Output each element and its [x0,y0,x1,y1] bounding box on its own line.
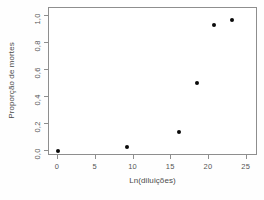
x-tick-label: 5 [93,162,97,171]
y-tick-label-text: 0,0 [34,148,42,159]
y-tick-label-text: 0,8 [34,40,42,51]
data-points-layer [49,8,256,154]
y-axis-title-label: Proporção de mortes [7,42,16,119]
x-tick-mark [246,155,247,159]
scatter-plot-figure: Proporção de mortes 0,00,20,40,60,81,0 L… [0,0,264,200]
y-tick-label-text: 0,6 [34,67,42,78]
data-point [177,130,181,134]
data-point [230,18,234,22]
y-tick-label: 0,2 [38,127,46,138]
y-tick-label-text: 0,4 [34,94,42,105]
x-tick-mark [95,155,96,159]
data-point [125,145,129,149]
y-tick-label-text: 1,0 [34,14,42,25]
x-axis: Ln(diluições) 0510152025 [48,155,257,200]
data-point [212,23,216,27]
y-axis-title: Proporção de mortes [4,0,18,160]
plot-frame [48,7,257,155]
x-tick-mark [133,155,134,159]
x-tick-mark [57,155,58,159]
x-tick-label: 20 [204,162,213,171]
x-tick-label: 0 [55,162,59,171]
y-tick-label: 0,0 [38,154,46,165]
y-tick-label: 0,6 [38,73,46,84]
y-tick-label: 0,4 [38,100,46,111]
y-axis: Proporção de mortes 0,00,20,40,60,81,0 [0,0,48,162]
y-tick-label-text: 0,2 [34,121,42,132]
data-point [56,149,60,153]
data-point [195,81,199,85]
x-axis-title-label: Ln(diluições) [129,176,176,185]
y-tick-label: 1,0 [38,19,46,30]
x-tick-mark [208,155,209,159]
y-tick-label: 0,8 [38,46,46,57]
x-axis-title: Ln(diluições) [48,176,257,185]
x-tick-mark [170,155,171,159]
x-tick-label: 10 [128,162,137,171]
x-tick-label: 25 [241,162,250,171]
x-tick-label: 15 [166,162,175,171]
